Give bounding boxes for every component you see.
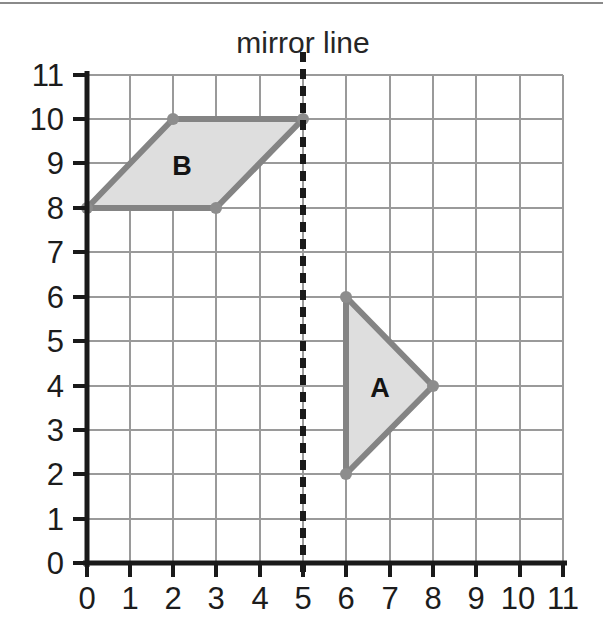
plot-area — [0, 0, 603, 620]
y-tick-label: 7 — [14, 237, 64, 268]
y-tick-label: 2 — [14, 459, 64, 490]
x-tick-label: 8 — [424, 583, 441, 614]
y-tick-label: 6 — [14, 282, 64, 313]
vertex-dot — [340, 468, 352, 480]
x-tick-label: 2 — [164, 583, 181, 614]
x-tick-label: 4 — [251, 583, 268, 614]
y-tick-label: 1 — [14, 504, 64, 535]
y-tick-label: 10 — [14, 104, 64, 135]
x-tick-label: 0 — [78, 583, 95, 614]
y-tick-label: 0 — [14, 548, 64, 579]
y-tick-label: 5 — [14, 326, 64, 357]
x-tick-label: 6 — [337, 583, 354, 614]
shape-b-label: B — [172, 153, 192, 180]
x-tick-label: 9 — [467, 583, 484, 614]
y-tick-label: 8 — [14, 193, 64, 224]
y-tick-label: 4 — [14, 371, 64, 402]
y-tick-label: 11 — [14, 60, 64, 91]
y-tick-label: 3 — [14, 415, 64, 446]
x-tick-label: 10 — [501, 583, 535, 614]
x-tick-label: 7 — [381, 583, 398, 614]
x-tick-label: 3 — [207, 583, 224, 614]
y-tick-label: 9 — [14, 148, 64, 179]
vertex-dot — [427, 380, 439, 392]
vertex-dot — [210, 202, 222, 214]
x-tick-label: 5 — [294, 583, 311, 614]
coordinate-grid-figure: mirror line — [0, 0, 603, 620]
shape-a-label: A — [370, 375, 390, 402]
vertex-dot — [167, 113, 179, 125]
vertex-dot — [340, 291, 352, 303]
x-tick-label: 1 — [121, 583, 138, 614]
x-tick-label: 11 — [547, 583, 579, 614]
